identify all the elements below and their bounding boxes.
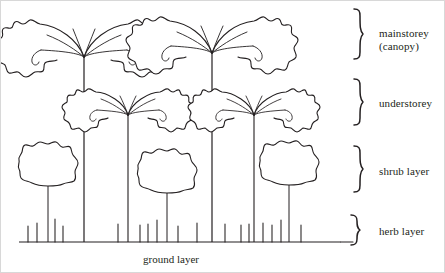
- layer-label-shrub: shrub layer: [379, 165, 429, 178]
- shrub-crown: [259, 141, 319, 185]
- layer-label-herb: herb layer: [379, 225, 424, 238]
- brace-herb: [351, 215, 360, 245]
- shrub-crown: [18, 142, 78, 186]
- shrub-2: [137, 149, 197, 242]
- ground-layer-label: ground layer: [1, 253, 341, 265]
- layer-label-understorey: understorey: [379, 97, 432, 110]
- brace-understorey: [354, 79, 363, 125]
- brace-mainstorey: [354, 9, 363, 59]
- herb-layer: [28, 219, 301, 242]
- shrub-3: [259, 141, 319, 242]
- brace-shrub: [354, 146, 363, 192]
- shrub-1: [18, 142, 78, 242]
- forest-layers-diagram: mainstorey (canopy) understorey shrub la…: [0, 0, 445, 273]
- layer-label-mainstorey: mainstorey (canopy): [379, 27, 429, 53]
- layer-braces: [341, 9, 363, 245]
- shrub-crown: [137, 149, 197, 193]
